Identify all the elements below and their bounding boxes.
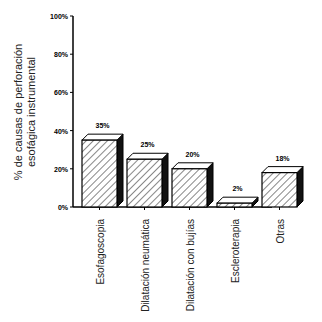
bar-chart: % de causas de perforaciónesofágica inst… — [0, 0, 322, 322]
bar-value-label: 18% — [275, 155, 290, 162]
bar-value-label: 35% — [95, 122, 110, 129]
x-category-label: Otras — [275, 219, 286, 243]
x-axis-labels: EsofagoscopiaDilatación neumáticaDilatac… — [95, 207, 286, 312]
bar: 35% — [82, 122, 123, 207]
bar: 2% — [217, 185, 258, 207]
bar-value-label: 2% — [232, 185, 243, 192]
y-tick-label: 60% — [54, 89, 69, 96]
y-axis-title-line: % de causas de perforación — [12, 44, 24, 180]
bar: 18% — [262, 155, 303, 207]
bar: 20% — [172, 151, 213, 207]
x-category-label: Dilatación neumática — [140, 219, 151, 312]
y-tick-label: 20% — [54, 166, 69, 173]
bar-value-label: 20% — [185, 151, 200, 158]
y-axis-title-line: esofágica instrumental — [25, 57, 37, 167]
x-category-label: Dilatación con bujías — [185, 219, 196, 311]
bar: 25% — [127, 141, 168, 207]
bar-value-label: 25% — [140, 141, 155, 148]
x-category-label: Escleroterapia — [230, 219, 241, 283]
y-tick-label: 80% — [54, 51, 69, 58]
bars: 35%25%20%2%18% — [82, 122, 303, 207]
x-category-label: Esofagoscopia — [95, 219, 106, 285]
y-tick-label: 40% — [54, 128, 69, 135]
y-axis-label: % de causas de perforaciónesofágica inst… — [12, 44, 37, 180]
y-tick-label: 0% — [58, 204, 69, 211]
y-tick-label: 100% — [50, 13, 69, 20]
